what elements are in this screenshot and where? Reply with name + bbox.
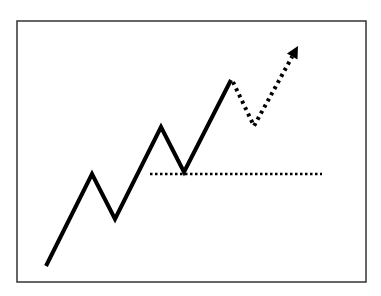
frame-border	[17, 21, 366, 282]
trend-diagram	[0, 0, 381, 296]
